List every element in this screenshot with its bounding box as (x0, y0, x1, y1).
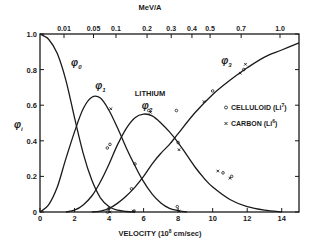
top-tick-label: 0.7 (236, 25, 246, 32)
annotation-lithium: LITHIUM (135, 89, 165, 98)
y-tick-label: 0.8 (27, 66, 37, 75)
y-tick-label: 0.2 (27, 172, 37, 181)
celluloid-marker (176, 205, 179, 208)
x-axis-title: VELOCITY (108 cm/sec) (118, 228, 202, 238)
axis-labels: MeV/A LITHIUM VELOCITY (108 cm/sec) φi (14, 3, 202, 238)
celluloid-marker (175, 109, 178, 112)
carbon-marker (178, 148, 181, 151)
top-axis-title: MeV/A (139, 3, 163, 12)
celluloid-marker (109, 143, 112, 146)
x-tick-label: 8 (176, 214, 180, 223)
data-markers (106, 63, 247, 213)
celluloid-marker (134, 163, 137, 166)
top-tick-label: 1.0 (275, 25, 285, 32)
y-tick-label: 0 (33, 208, 37, 217)
legend-entry-carbon: CARBON (Li6) (231, 118, 277, 128)
x-tick-label: 12 (243, 214, 251, 223)
top-tick-label: 0.05 (87, 25, 101, 32)
x-tick-label: 6 (142, 214, 146, 223)
legend-x-icon (225, 122, 228, 125)
top-tick-label: 0.01 (57, 25, 71, 32)
top-tick-label: 0.1 (111, 25, 121, 32)
y-tick-label: 0.4 (27, 137, 38, 146)
series-label-phi0: φ0 (71, 57, 82, 70)
celluloid-marker (222, 172, 225, 175)
series-label-phi3: φ3 (221, 55, 232, 68)
legend: CELLULOID (Li7)CARBON (Li6) (225, 102, 287, 128)
x-tick-label: 0 (38, 214, 42, 223)
legend-circle-icon (225, 106, 228, 109)
carbon-marker (244, 63, 247, 66)
x-tick-label: 10 (208, 214, 216, 223)
top-tick-label: 0.4 (187, 25, 197, 32)
x-tick-label: 4 (107, 214, 112, 223)
phi-velocity-chart: 0246810121400.20.40.60.81.00.010.050.10.… (0, 0, 316, 250)
legend-entry-celluloid: CELLULOID (Li7) (231, 102, 287, 112)
x-tick-label: 2 (72, 214, 76, 223)
top-tick-label: 0.2 (142, 25, 152, 32)
top-tick-label: 0.3 (166, 25, 176, 32)
x-tick-label: 14 (278, 214, 287, 223)
series-label-phi1: φ1 (95, 80, 106, 93)
celluloid-marker (106, 147, 109, 150)
carbon-marker (109, 107, 112, 110)
y-axis-title: φi (14, 119, 23, 132)
y-tick-label: 0.6 (27, 101, 37, 110)
curve-phi3 (92, 43, 299, 212)
top-tick-label: 0.5 (205, 25, 215, 32)
y-tick-label: 1.0 (27, 30, 37, 39)
celluloid-marker (211, 90, 214, 93)
carbon-marker (217, 170, 220, 173)
curve-phi2 (66, 114, 282, 212)
curve-phi0 (40, 34, 135, 212)
celluloid-marker (130, 188, 133, 191)
carbon-marker (229, 177, 232, 180)
